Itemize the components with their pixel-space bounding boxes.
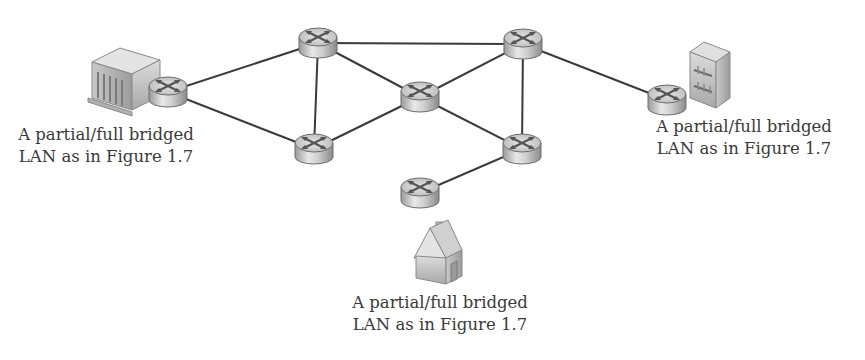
- lan-label-left: A partial/full bridged LAN as in Figure …: [8, 124, 204, 168]
- link: [523, 44, 667, 100]
- links: [168, 43, 667, 193]
- router-icon: [299, 28, 337, 58]
- link: [318, 43, 523, 44]
- lan-label-line2: LAN as in Figure 1.7: [646, 138, 842, 160]
- link: [168, 43, 318, 92]
- lan-label-line2: LAN as in Figure 1.7: [8, 146, 204, 168]
- lan-label-line1: A partial/full bridged: [646, 116, 842, 138]
- router-icon: [149, 77, 187, 107]
- router-icon: [648, 85, 686, 115]
- lan-label-line1: A partial/full bridged: [8, 124, 204, 146]
- link: [522, 44, 523, 149]
- router-icon: [504, 29, 542, 59]
- routers: [149, 28, 686, 208]
- tower-building-icon: [690, 42, 730, 108]
- link: [314, 43, 318, 149]
- router-icon: [503, 134, 541, 164]
- lan-label-bottom: A partial/full bridged LAN as in Figure …: [342, 292, 538, 336]
- office-building-icon: [88, 48, 160, 116]
- router-icon: [401, 178, 439, 208]
- house-icon: [414, 220, 462, 284]
- lan-label-line2: LAN as in Figure 1.7: [342, 314, 538, 336]
- router-icon: [295, 134, 333, 164]
- lan-label-line1: A partial/full bridged: [342, 292, 538, 314]
- lan-label-right: A partial/full bridged LAN as in Figure …: [646, 116, 842, 160]
- router-icon: [401, 82, 439, 112]
